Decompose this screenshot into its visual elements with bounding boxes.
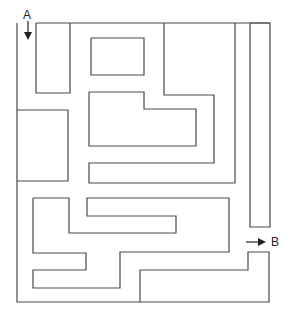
arrow-right-icon xyxy=(246,238,266,246)
end-label: B xyxy=(271,236,279,248)
wall-small-rect xyxy=(91,38,144,75)
wall-left-box xyxy=(17,110,68,181)
wall-l-block xyxy=(89,92,196,146)
wall-right-bar xyxy=(250,23,270,227)
wall-s-block xyxy=(33,198,229,288)
maze-walls xyxy=(0,0,293,316)
wall-start-pillar xyxy=(36,23,70,93)
wall-hook xyxy=(89,23,235,183)
maze-diagram: A B xyxy=(0,0,293,316)
start-label: A xyxy=(23,9,31,21)
arrow-down-icon xyxy=(24,21,32,40)
